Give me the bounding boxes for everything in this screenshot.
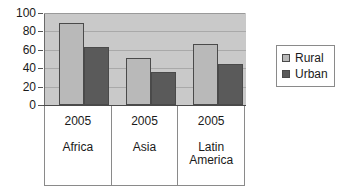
bar-chart: 100 80 60 40 20 0 2005 Africa — [0, 0, 349, 188]
category-year-asia: 2005 — [131, 115, 158, 128]
bar-asia-rural — [126, 58, 151, 105]
bar-latin-america-urban — [218, 64, 243, 105]
y-tick-label-0: 0 — [29, 99, 36, 111]
category-label-africa: Africa — [62, 141, 93, 154]
plot-top-border — [44, 13, 245, 14]
legend-item-rural: Rural — [282, 50, 328, 66]
bar-latin-america-rural — [193, 44, 218, 105]
category-label-latin-america: Latin America — [178, 141, 244, 167]
category-cell-asia: 2005 Asia — [111, 106, 178, 185]
y-tick-label-100: 100 — [16, 7, 36, 19]
bars-layer — [45, 13, 246, 105]
legend-label-urban: Urban — [295, 68, 328, 81]
y-axis: 100 80 60 40 20 0 — [0, 6, 36, 107]
bar-africa-rural — [59, 23, 84, 105]
y-tick-label-80: 80 — [23, 25, 36, 37]
y-tick-mark-80 — [38, 31, 43, 32]
chart-legend: Rural Urban — [276, 45, 335, 87]
bar-africa-urban — [84, 47, 109, 105]
category-label-panel: 2005 Africa 2005 Asia 2005 Latin America — [44, 106, 245, 186]
legend-item-urban: Urban — [282, 66, 328, 82]
legend-label-rural: Rural — [295, 52, 324, 65]
category-cell-latin-america: 2005 Latin America — [177, 106, 244, 185]
category-year-africa: 2005 — [64, 115, 91, 128]
category-year-latin-america: 2005 — [198, 115, 225, 128]
bar-asia-urban — [151, 72, 176, 105]
y-tick-mark-20 — [38, 87, 43, 88]
y-tick-mark-40 — [38, 68, 43, 69]
category-cell-africa: 2005 Africa — [45, 106, 111, 185]
legend-swatch-rural-icon — [282, 54, 290, 62]
y-tick-mark-60 — [38, 50, 43, 51]
y-tick-label-60: 60 — [23, 44, 36, 56]
plot-area — [44, 13, 246, 105]
category-label-asia: Asia — [133, 141, 156, 154]
legend-swatch-urban-icon — [282, 70, 290, 78]
y-tick-label-20: 20 — [23, 81, 36, 93]
y-tick-label-40: 40 — [23, 62, 36, 74]
y-tick-mark-100 — [38, 13, 43, 14]
